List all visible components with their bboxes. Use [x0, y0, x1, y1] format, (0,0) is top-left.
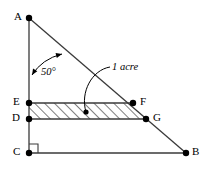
diagram-canvas [0, 0, 208, 173]
vertex-label-a: A [14, 11, 22, 22]
geometry-diagram: AEDCFGB 50° 1 acre [0, 0, 208, 173]
vertex-dot-e [26, 100, 32, 106]
vertex-dot-c [26, 150, 32, 156]
vertex-dot-a [26, 15, 32, 21]
vertex-label-e: E [13, 96, 20, 107]
angle-label-50-degrees: 50° [41, 67, 56, 78]
vertex-dot-d [26, 116, 32, 122]
vertex-dot-g [143, 116, 149, 122]
vertex-label-f: F [140, 96, 146, 107]
area-annotation-label: 1 acre [112, 62, 138, 73]
vertex-dot-f [130, 100, 136, 106]
region-marker-dot [83, 109, 88, 114]
vertex-label-b: B [192, 146, 199, 157]
vertex-dot-b [183, 150, 189, 156]
vertex-label-d: D [12, 112, 20, 123]
hypotenuse-ab-line [29, 18, 186, 153]
vertex-label-c: C [13, 146, 20, 157]
vertex-label-g: G [153, 112, 161, 123]
